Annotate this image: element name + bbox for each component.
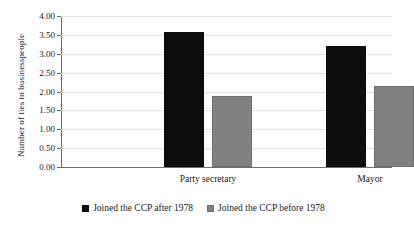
y-tick-label: 0.00: [39, 163, 55, 172]
x-category-label: Party secretary: [180, 174, 237, 185]
legend-swatch-black: [82, 205, 89, 212]
y-tick-mark: [57, 110, 61, 111]
y-tick-label: 4.00: [39, 12, 55, 21]
y-tick-mark: [57, 129, 61, 130]
y-tick-mark: [57, 73, 61, 74]
y-tick-label: 0.50: [39, 144, 55, 153]
legend-item-before-1978[interactable]: Joined the CCP before 1978: [207, 203, 325, 214]
y-axis-title: Number of ties to businesspeople: [14, 8, 28, 183]
legend-label: Joined the CCP after 1978: [93, 203, 193, 214]
y-tick-mark: [57, 54, 61, 55]
y-tick-mark: [57, 35, 61, 36]
y-tick-mark: [57, 167, 61, 168]
y-tick-label: 2.50: [39, 68, 55, 77]
x-category-label: Mayor: [357, 174, 382, 185]
y-tick-label: 1.00: [39, 125, 55, 134]
bar-before-1978-1: [374, 86, 414, 167]
x-axis-line: [61, 167, 392, 168]
legend-label: Joined the CCP before 1978: [218, 203, 325, 214]
chart-legend: Joined the CCP after 1978Joined the CCP …: [0, 203, 407, 214]
gridline: [61, 35, 392, 36]
bar-after-1978-1: [326, 46, 366, 167]
y-tick-label: 2.00: [39, 87, 55, 96]
bar-after-1978-0: [164, 32, 204, 167]
y-tick-mark: [57, 148, 61, 149]
y-tick-mark: [57, 92, 61, 93]
y-tick-mark: [57, 16, 61, 17]
bar-before-1978-0: [212, 96, 252, 167]
y-tick-label: 1.50: [39, 106, 55, 115]
legend-item-after-1978[interactable]: Joined the CCP after 1978: [82, 203, 193, 214]
plot-area: 4.003.503.002.502.001.501.000.500.00: [61, 16, 392, 168]
legend-swatch-gray: [207, 205, 214, 212]
gridline: [61, 16, 392, 17]
y-tick-label: 3.00: [39, 49, 55, 58]
y-tick-label: 3.50: [39, 30, 55, 39]
